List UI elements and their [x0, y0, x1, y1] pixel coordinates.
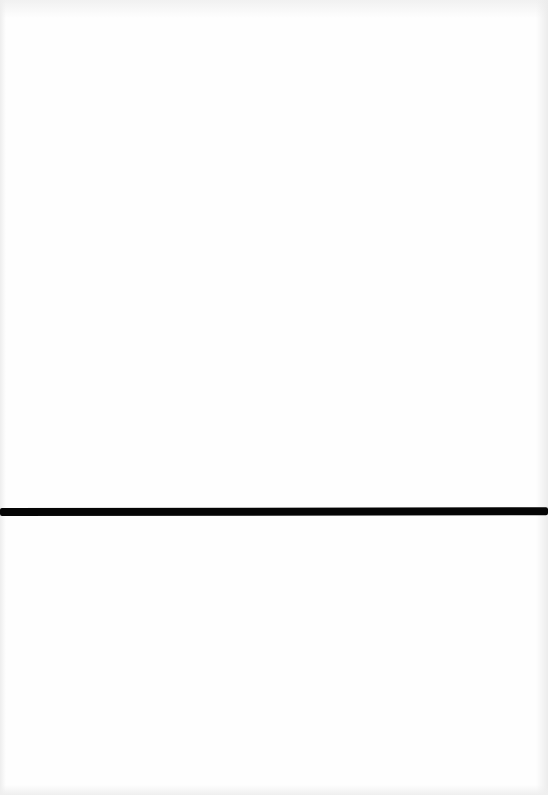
scanned-page [0, 0, 548, 795]
page-edge-shadow-top [0, 0, 548, 18]
page-edge-shadow-left [0, 0, 6, 795]
horizontal-rule [0, 507, 548, 516]
page-edge-shadow-bottom [0, 785, 548, 795]
page-edge-shadow-right [536, 0, 548, 795]
